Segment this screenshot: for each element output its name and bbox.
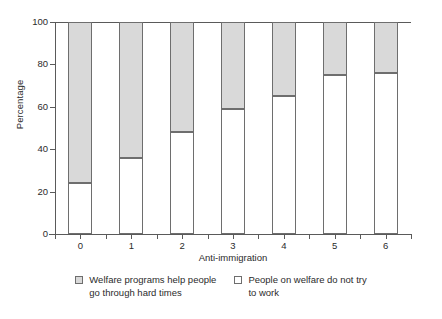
bar-segment-people-do-not-try-to-work (221, 109, 245, 234)
y-tick-label: 40 (22, 144, 48, 154)
x-tick-label: 2 (167, 240, 197, 252)
legend-label: People on welfare do not try to work (248, 274, 366, 299)
x-tick-mark (233, 234, 234, 239)
y-axis-tick-labels: 020406080100 (22, 0, 48, 250)
legend-swatch-white-icon (234, 276, 242, 284)
x-tick-mark-minor (55, 234, 56, 239)
bar-segment-people-do-not-try-to-work (170, 132, 194, 234)
bar-group (323, 22, 347, 234)
x-tick-mark (284, 234, 285, 239)
bar-segment-welfare-programs-help (374, 22, 398, 73)
y-tick-mark (50, 22, 55, 23)
y-tick-label: 0 (22, 229, 48, 239)
x-tick-label: 3 (218, 240, 248, 252)
bar-segment-people-do-not-try-to-work (272, 96, 296, 234)
x-tick-mark-minor (157, 234, 158, 239)
y-tick-mark (50, 64, 55, 65)
y-tick-label: 100 (22, 17, 48, 27)
axes (55, 22, 410, 234)
bar-segment-welfare-programs-help (68, 22, 92, 183)
bar-group (272, 22, 296, 234)
bar-segment-people-do-not-try-to-work (68, 183, 92, 234)
bar-segment-welfare-programs-help (119, 22, 143, 158)
x-axis-line (49, 234, 411, 235)
bar-segment-people-do-not-try-to-work (374, 73, 398, 234)
bar-segment-welfare-programs-help (272, 22, 296, 96)
chart-legend: Welfare programs help people go through … (0, 274, 442, 316)
x-tick-label: 5 (320, 240, 350, 252)
x-tick-mark-minor (106, 234, 107, 239)
y-tick-mark (50, 107, 55, 108)
y-tick-mark (50, 149, 55, 150)
x-tick-mark-minor (258, 234, 259, 239)
y-tick-label: 20 (22, 187, 48, 197)
bar-segment-people-do-not-try-to-work (119, 158, 143, 234)
x-tick-mark-minor (208, 234, 209, 239)
x-tick-label: 4 (269, 240, 299, 252)
bar-group (374, 22, 398, 234)
bar-group (170, 22, 194, 234)
x-tick-mark-minor (309, 234, 310, 239)
x-tick-mark (182, 234, 183, 239)
x-tick-mark-minor (360, 234, 361, 239)
legend-item: Welfare programs help people go through … (75, 274, 216, 299)
bar-segment-welfare-programs-help (170, 22, 194, 132)
x-tick-mark (386, 234, 387, 239)
bar-segment-welfare-programs-help (323, 22, 347, 75)
legend-item: People on welfare do not try to work (234, 274, 366, 299)
x-tick-mark-minor (411, 234, 412, 239)
bar-group (119, 22, 143, 234)
y-tick-label: 60 (22, 102, 48, 112)
x-tick-label: 0 (65, 240, 95, 252)
x-tick-mark (80, 234, 81, 239)
legend-swatch-gray-icon (75, 276, 83, 284)
plot-area: Percentage 020406080100 0123456 Anti-imm… (0, 0, 442, 250)
stacked-bar-chart: Percentage 020406080100 0123456 Anti-imm… (0, 0, 442, 319)
x-axis-title: Anti-immigration (55, 252, 411, 263)
y-tick-mark (50, 192, 55, 193)
bar-group (221, 22, 245, 234)
legend-label: Welfare programs help people go through … (89, 274, 216, 299)
bar-segment-welfare-programs-help (221, 22, 245, 109)
x-tick-label: 6 (371, 240, 401, 252)
bar-group (68, 22, 92, 234)
bars-layer (55, 22, 411, 234)
y-tick-label: 80 (22, 59, 48, 69)
x-tick-label: 1 (116, 240, 146, 252)
x-tick-mark (335, 234, 336, 239)
x-tick-mark (131, 234, 132, 239)
bar-segment-people-do-not-try-to-work (323, 75, 347, 234)
